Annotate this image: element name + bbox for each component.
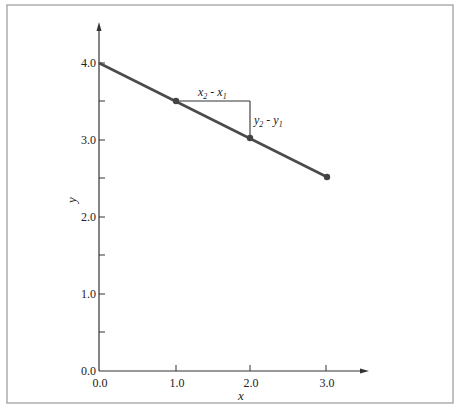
rise-annotation: y2 - y1 [253,113,283,129]
x-axis-arrow-icon [360,369,369,374]
y-ticks [99,63,105,332]
y-axis-arrow-icon [97,22,102,31]
figure-frame [7,5,453,403]
x-tick-label: 1.0 [170,376,185,390]
data-point [324,174,330,180]
y-tick-label: 2.0 [81,210,96,224]
y-axis-label: y [64,197,79,205]
data-point [247,135,253,141]
x-tick-label: 3.0 [320,376,335,390]
run-annotation: x2 - x1 [197,85,227,101]
y-tick-label: 3.0 [81,133,96,147]
x-tick-label: 2.0 [244,376,259,390]
x-axis-label: x [237,388,244,403]
slope-chart: 4.0 3.0 2.0 1.0 0.0 0.0 1.0 2.0 3.0 x y … [0,0,458,413]
x-ticks [176,365,326,371]
y-tick-label: 4.0 [81,56,96,70]
y-tick-label: 1.0 [81,287,96,301]
data-point [173,98,179,104]
x-tick-labels: 0.0 1.0 2.0 3.0 [93,376,335,390]
x-tick-label: 0.0 [93,376,108,390]
data-line [99,63,327,177]
y-tick-labels: 4.0 3.0 2.0 1.0 0.0 [81,56,96,378]
